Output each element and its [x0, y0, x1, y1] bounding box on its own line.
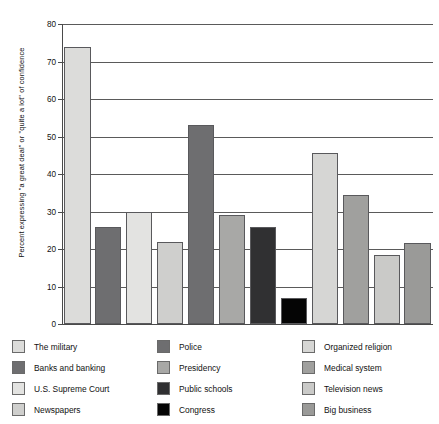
bar — [404, 243, 430, 324]
legend-item[interactable]: The military — [12, 336, 162, 357]
y-tick-label: 70 — [47, 57, 56, 66]
legend-swatch-icon — [157, 361, 170, 374]
y-tick-mark — [58, 324, 63, 325]
bar — [126, 212, 152, 325]
legend-item[interactable]: Banks and banking — [12, 357, 162, 378]
y-tick-label: 30 — [47, 207, 56, 216]
legend-label: Television news — [324, 384, 383, 394]
legend-item[interactable]: Presidency — [157, 357, 307, 378]
legend-label: Presidency — [179, 363, 220, 373]
y-tick-label: 20 — [47, 245, 56, 254]
bar — [250, 227, 276, 325]
bar — [157, 242, 183, 325]
confidence-in-institutions-bar-chart: Percent expressing "a great deal" or "qu… — [0, 0, 439, 424]
legend-item[interactable]: Public schools — [157, 378, 307, 399]
gridline — [62, 324, 433, 325]
legend-label: Big business — [324, 405, 372, 415]
bar — [219, 215, 245, 324]
legend-item[interactable]: U.S. Supreme Court — [12, 378, 162, 399]
legend-item[interactable]: Organized religion — [302, 336, 439, 357]
legend-label: Newspapers — [34, 405, 81, 415]
legend-swatch-icon — [12, 403, 25, 416]
chart-axes: 01020304050607080 — [62, 24, 433, 324]
legend-label: The military — [34, 342, 77, 352]
bar — [281, 298, 307, 324]
y-tick-label: 60 — [47, 95, 56, 104]
chart-legend: The militaryBanks and bankingU.S. Suprem… — [12, 336, 432, 420]
legend-label: Medical system — [324, 363, 382, 373]
legend-label: Organized religion — [324, 342, 392, 352]
legend-column: The militaryBanks and bankingU.S. Suprem… — [12, 336, 162, 420]
legend-swatch-icon — [12, 361, 25, 374]
legend-swatch-icon — [157, 340, 170, 353]
legend-item[interactable]: Medical system — [302, 357, 439, 378]
legend-label: Public schools — [179, 384, 233, 394]
bar — [95, 227, 121, 325]
legend-item[interactable]: Congress — [157, 399, 307, 420]
legend-item[interactable]: Newspapers — [12, 399, 162, 420]
legend-swatch-icon — [12, 340, 25, 353]
legend-item[interactable]: Police — [157, 336, 307, 357]
legend-swatch-icon — [302, 361, 315, 374]
y-tick-label: 10 — [47, 282, 56, 291]
legend-swatch-icon — [157, 382, 170, 395]
legend-item[interactable]: Big business — [302, 399, 439, 420]
legend-swatch-icon — [157, 403, 170, 416]
bar — [188, 125, 214, 324]
bar — [64, 47, 90, 325]
legend-column: Organized religionMedical systemTelevisi… — [302, 336, 439, 420]
legend-swatch-icon — [302, 340, 315, 353]
legend-swatch-icon — [12, 382, 25, 395]
bar — [343, 195, 369, 324]
legend-label: Banks and banking — [34, 363, 105, 373]
y-tick-label: 50 — [47, 132, 56, 141]
legend-item[interactable]: Television news — [302, 378, 439, 399]
legend-swatch-icon — [302, 403, 315, 416]
y-tick-label: 80 — [47, 20, 56, 29]
y-tick-label: 0 — [51, 320, 56, 329]
legend-swatch-icon — [302, 382, 315, 395]
legend-label: Congress — [179, 405, 215, 415]
plot-area: Percent expressing "a great deal" or "qu… — [0, 14, 439, 330]
bar — [374, 255, 400, 324]
bar — [312, 153, 338, 324]
y-axis-title: Percent expressing "a great deal" or "qu… — [17, 28, 26, 278]
legend-label: U.S. Supreme Court — [34, 384, 109, 394]
legend-column: PolicePresidencyPublic schoolsCongress — [157, 336, 307, 420]
y-tick-label: 40 — [47, 170, 56, 179]
legend-label: Police — [179, 342, 202, 352]
bar-series — [62, 24, 433, 324]
